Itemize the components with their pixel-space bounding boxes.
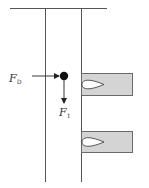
drag-force-subscript: D <box>17 78 22 85</box>
lift-force-symbol: F <box>58 106 67 119</box>
drag-force-symbol: F <box>8 72 17 85</box>
upper-side-block <box>82 74 133 96</box>
lower-side-block <box>82 132 133 153</box>
lift-force-label: F1 <box>58 106 70 119</box>
force-diagram: FD F1 <box>0 0 149 188</box>
drag-force-label: FD <box>8 72 22 85</box>
lift-force-subscript: 1 <box>67 112 71 119</box>
particle-dot <box>60 72 68 80</box>
